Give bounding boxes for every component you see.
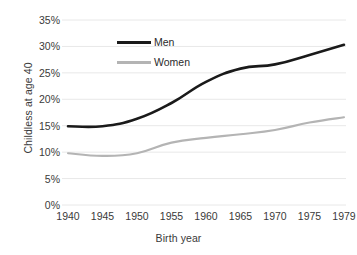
- x-tick-label: 1970: [263, 210, 286, 222]
- series-lines: [68, 45, 344, 156]
- x-axis-title: Birth year: [0, 232, 357, 244]
- x-tick-label: 1940: [56, 210, 79, 222]
- legend-item-men: Men: [117, 36, 190, 49]
- x-tick-label: 1975: [298, 210, 321, 222]
- chart-container: Childless at age 40 0%5%10%15%20%25%30%3…: [0, 0, 357, 255]
- x-tick-label: 1945: [91, 210, 114, 222]
- chart-legend: Men Women: [117, 36, 190, 69]
- x-tick-label: 1955: [160, 210, 183, 222]
- series-line-men: [68, 45, 344, 127]
- gridlines: [62, 20, 346, 205]
- x-tick-label: 1960: [194, 210, 217, 222]
- x-tick-label: 1965: [229, 210, 252, 222]
- x-tick-label: 1979: [332, 210, 355, 222]
- legend-label-women: Women: [154, 57, 190, 68]
- legend-swatch-men-icon: [117, 41, 151, 44]
- series-line-women: [68, 117, 344, 156]
- legend-item-women: Women: [117, 56, 190, 69]
- x-tick-label: 1950: [125, 210, 148, 222]
- legend-label-men: Men: [154, 37, 174, 48]
- legend-swatch-women-icon: [117, 61, 151, 64]
